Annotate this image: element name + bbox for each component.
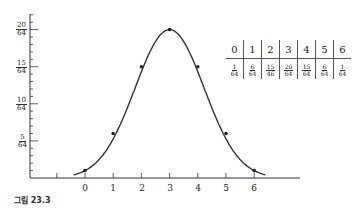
table-header-cell: 4 bbox=[298, 40, 316, 59]
table-header-cell: 6 bbox=[334, 40, 352, 59]
y-tick-label-20-64: 2064 bbox=[16, 22, 27, 37]
y-tick-label-5-64: 564 bbox=[18, 134, 27, 149]
table-cell: 2064 bbox=[280, 59, 298, 80]
x-tick-label-4: 4 bbox=[195, 183, 201, 193]
bell-curve-chart bbox=[0, 0, 354, 211]
table-cell: 1546 bbox=[262, 59, 280, 80]
table-header-cell: 2 bbox=[262, 40, 280, 59]
x-tick-label-6: 6 bbox=[251, 183, 257, 193]
y-axis-ticks bbox=[30, 15, 38, 171]
table-header-cell: 5 bbox=[316, 40, 334, 59]
y-tick-label-15-64: 1564 bbox=[16, 60, 27, 75]
table-cell: 664 bbox=[316, 59, 334, 80]
table-header-row: 0 1 2 3 4 5 6 bbox=[226, 40, 351, 59]
probability-table: 0 1 2 3 4 5 6 164 664 1546 2064 1564 664… bbox=[226, 40, 351, 79]
table-cell: 164 bbox=[226, 59, 244, 80]
table-header-cell: 3 bbox=[280, 40, 298, 59]
x-tick-label-5: 5 bbox=[223, 183, 229, 193]
x-tick-label-0: 0 bbox=[82, 183, 88, 193]
table-value-row: 164 664 1546 2064 1564 664 164 bbox=[226, 59, 351, 80]
table-cell: 164 bbox=[334, 59, 352, 80]
x-tick-label-2: 2 bbox=[139, 183, 145, 193]
x-axis-ticks bbox=[57, 173, 254, 178]
x-tick-label-1: 1 bbox=[110, 183, 116, 193]
table-cell: 664 bbox=[244, 59, 262, 80]
figure-caption: 그림 23.3 bbox=[14, 194, 51, 205]
table-header-cell: 0 bbox=[226, 40, 244, 59]
y-tick-label-10-64: 1064 bbox=[16, 97, 27, 112]
x-tick-label-3: 3 bbox=[167, 183, 173, 193]
table-header-cell: 1 bbox=[244, 40, 262, 59]
table-cell: 1564 bbox=[298, 59, 316, 80]
